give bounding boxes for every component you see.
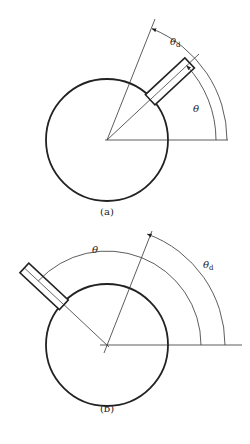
theta-d-label: θd bbox=[170, 36, 181, 49]
probe bbox=[145, 58, 194, 105]
theta-label: θ bbox=[92, 244, 98, 255]
theta-arc bbox=[187, 66, 216, 140]
theta-d-arc bbox=[147, 234, 225, 345]
figure-canvas: θd θ (a) θ θd (b) bbox=[0, 0, 250, 444]
probe bbox=[20, 263, 68, 309]
theta-d-label: θd bbox=[203, 259, 214, 272]
panel-b: θ θd (b) bbox=[20, 231, 242, 414]
panel-a: θd θ (a) bbox=[46, 19, 228, 217]
caption-b: (b) bbox=[100, 403, 114, 414]
theta-label: θ bbox=[193, 103, 199, 114]
theta-d-reference-line bbox=[104, 231, 152, 353]
caption-a: (a) bbox=[100, 206, 114, 217]
